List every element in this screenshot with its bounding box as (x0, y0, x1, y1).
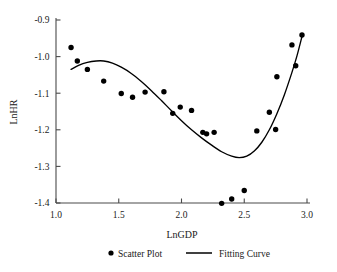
scatter-point (178, 104, 183, 109)
x-tick-label: 1.5 (113, 210, 125, 220)
scatter-point (289, 42, 294, 47)
scatter-point (254, 128, 259, 133)
x-tick-label: 1.0 (50, 210, 62, 220)
scatter-plot-chart: -0.9-1.0-1.1-1.2-1.3-1.4 1.01.52.02.53.0… (0, 0, 337, 272)
scatter-point (242, 188, 247, 193)
scatter-point (68, 45, 73, 50)
scatter-point (85, 67, 90, 72)
x-axis-ticks: 1.01.52.02.53.0 (50, 199, 313, 221)
plot-axes (56, 18, 310, 203)
fitting-curve-group (71, 36, 302, 157)
scatter-point (274, 74, 279, 79)
legend-curve-label: Fitting Curve (219, 249, 270, 259)
scatter-point (204, 131, 209, 136)
y-tick-label: -0.9 (34, 15, 49, 25)
scatter-point (142, 89, 147, 94)
y-tick-label: -1.0 (34, 52, 49, 62)
scatter-point (267, 110, 272, 115)
scatter-point (189, 108, 194, 113)
scatter-point (229, 196, 234, 201)
y-tick-label: -1.2 (34, 125, 49, 135)
legend-scatter-label: Scatter Plot (118, 249, 162, 259)
scatter-point (130, 95, 135, 100)
scatter-point (161, 89, 166, 94)
y-tick-label: -1.3 (34, 162, 49, 172)
scatter-point (101, 78, 106, 83)
y-tick-label: -1.4 (34, 198, 49, 208)
y-tick-label: -1.1 (34, 89, 49, 99)
scatter-point (75, 58, 80, 63)
fitting-curve-path (71, 36, 302, 157)
chart-legend: Scatter Plot Fitting Curve (108, 249, 270, 259)
scatter-point (211, 130, 216, 135)
scatter-point (219, 201, 224, 206)
x-tick-label: 3.0 (301, 210, 313, 220)
scatter-point (293, 63, 298, 68)
legend-scatter-marker-icon (108, 250, 113, 255)
scatter-point (170, 111, 175, 116)
y-axis-title: LnHR (8, 99, 19, 124)
y-axis-ticks: -0.9-1.0-1.1-1.2-1.3-1.4 (34, 15, 60, 208)
scatter-points-group (68, 32, 304, 206)
scatter-point (273, 127, 278, 132)
x-axis-title: LnGDP (166, 229, 198, 240)
x-tick-label: 2.0 (176, 210, 188, 220)
chart-figure: -0.9-1.0-1.1-1.2-1.3-1.4 1.01.52.02.53.0… (0, 0, 337, 272)
x-tick-label: 2.5 (238, 210, 250, 220)
scatter-point (299, 32, 304, 37)
scatter-point (119, 91, 124, 96)
